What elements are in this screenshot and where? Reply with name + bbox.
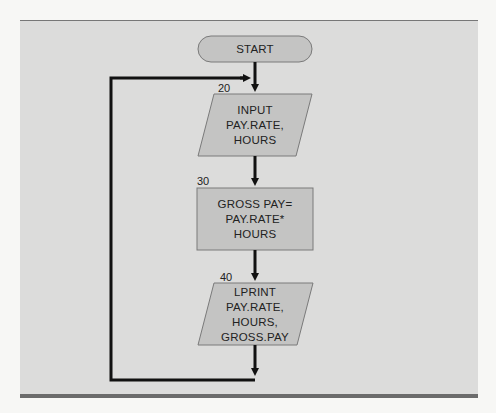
bottom-rule xyxy=(20,394,478,398)
output-line-2: PAY.RATE, xyxy=(205,300,305,315)
input-text: INPUT PAY.RATE, HOURS xyxy=(205,103,305,148)
input-line-1: INPUT xyxy=(205,103,305,118)
output-line-3: HOURS, xyxy=(205,315,305,330)
line-number-40: 40 xyxy=(220,271,232,283)
process-line-3: HOURS xyxy=(197,227,313,242)
input-line-3: HOURS xyxy=(205,133,305,148)
start-label: START xyxy=(198,42,312,57)
output-line-1: LPRINT xyxy=(205,285,305,300)
line-number-30: 30 xyxy=(197,175,209,187)
process-line-1: GROSS PAY= xyxy=(197,197,313,212)
line-number-20: 20 xyxy=(218,82,230,94)
process-text: GROSS PAY= PAY.RATE* HOURS xyxy=(197,197,313,242)
process-line-2: PAY.RATE* xyxy=(197,212,313,227)
input-line-2: PAY.RATE, xyxy=(205,118,305,133)
output-line-4: GROSS.PAY xyxy=(205,330,305,345)
output-text: LPRINT PAY.RATE, HOURS, GROSS.PAY xyxy=(205,285,305,345)
